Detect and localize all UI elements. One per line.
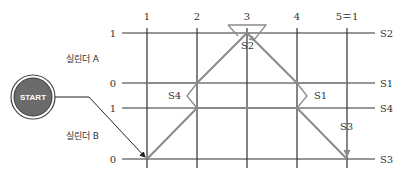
- s1-signal-marker: [297, 83, 307, 108]
- displacement-step-diagram: 1 2 3 4 5＝1 1 0 1 0 실린더 A 실린더 B S2 S1 S4…: [0, 0, 405, 181]
- level-a-0: 0: [110, 78, 116, 89]
- s4-annotation: S4: [168, 90, 181, 101]
- level-b-1: 1: [110, 103, 116, 114]
- start-label: START: [20, 93, 46, 102]
- cylinder-b-label: 실린더 B: [66, 131, 99, 141]
- level-b-0: 0: [110, 154, 116, 165]
- s4-signal-marker: [187, 83, 197, 108]
- step-label-4: 4: [294, 11, 300, 22]
- signal-s3: S3: [380, 154, 393, 165]
- signal-s4: S4: [380, 103, 393, 114]
- start-connector-arrow: [55, 97, 145, 157]
- step-label-2: 2: [194, 11, 200, 22]
- s2-annotation: S2: [241, 40, 254, 51]
- step-label-5: 5＝1: [336, 11, 359, 22]
- signal-s2: S2: [380, 28, 393, 39]
- step-label-3: 3: [244, 11, 250, 22]
- start-button[interactable]: START: [11, 75, 55, 119]
- cylinder-a-label: 실린더 A: [66, 54, 100, 64]
- signal-s1: S1: [380, 78, 393, 89]
- s3-annotation: S3: [340, 121, 353, 132]
- level-a-1: 1: [110, 28, 116, 39]
- step-label-1: 1: [144, 11, 150, 22]
- s1-annotation: S1: [314, 90, 327, 101]
